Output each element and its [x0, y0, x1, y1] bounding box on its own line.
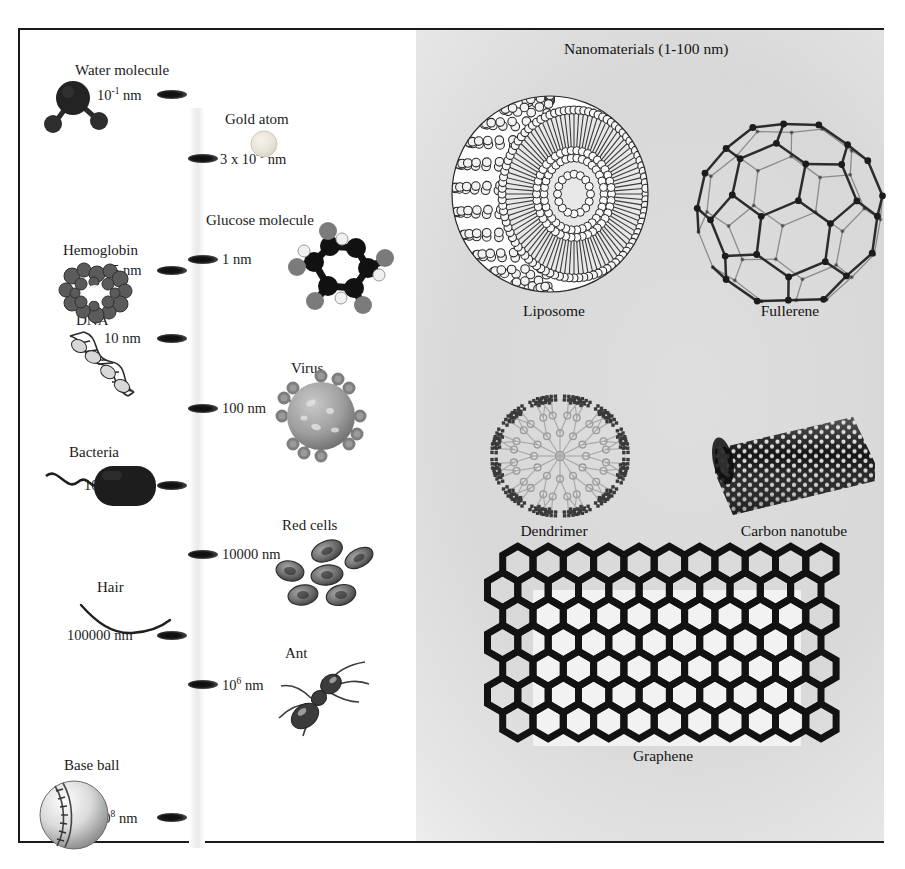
- value-virus: 100 nm: [222, 400, 266, 417]
- liposome-icon: [444, 88, 656, 300]
- hemoglobin-icon: [56, 262, 136, 324]
- dendrimer-icon: [457, 366, 663, 546]
- graphene-icon: [533, 590, 801, 746]
- nanomaterial-label-dendrimer: Dendrimer: [494, 522, 614, 540]
- label-hair: Hair: [97, 579, 124, 596]
- baseball-icon: [37, 778, 111, 852]
- dna-icon: [60, 330, 138, 406]
- gold-atom-icon: [249, 129, 279, 159]
- tick-ant: [188, 680, 218, 689]
- nanomaterial-label-fullerene: Fullerene: [730, 302, 850, 320]
- value-ant: 106 nm: [222, 676, 263, 694]
- ant-icon: [275, 658, 371, 738]
- label-hemoglobin: Hemoglobin: [63, 242, 138, 259]
- hair-icon: [78, 602, 174, 642]
- nanomaterial-label-liposome: Liposome: [494, 302, 614, 320]
- value-red-cells: 10000 nm: [222, 546, 280, 563]
- label-red-cells: Red cells: [282, 517, 337, 534]
- value-glucose-molecule: 1 nm: [222, 251, 251, 268]
- label-gold-atom: Gold atom: [225, 111, 289, 128]
- carbon-nanotube-icon: [703, 415, 883, 527]
- nanoscale-comparison-figure: Nanomaterials (1-100 nm) Water molecule …: [0, 0, 905, 869]
- tick-gold-atom: [188, 154, 218, 163]
- tick-dna: [157, 334, 187, 343]
- page-title: Nanomaterials (1-100 nm): [564, 40, 728, 58]
- fullerene-icon: [701, 125, 879, 303]
- tick-base-ball: [157, 813, 187, 822]
- virus-icon: [278, 372, 364, 460]
- red-blood-cells-icon: [275, 538, 375, 608]
- nanomaterial-label-carbon-nanotube: Carbon nanotube: [714, 522, 874, 540]
- tick-glucose-molecule: [188, 255, 218, 264]
- tick-hemoglobin: [157, 266, 187, 275]
- water-molecule-icon: [42, 76, 120, 136]
- tick-virus: [188, 404, 218, 413]
- size-scale-axis: [189, 108, 205, 848]
- bacteria-icon: [42, 462, 162, 514]
- nanomaterial-label-graphene: Graphene: [598, 747, 728, 765]
- label-bacteria: Bacteria: [69, 444, 119, 461]
- figure-frame: Nanomaterials (1-100 nm) Water molecule …: [18, 28, 884, 843]
- tick-water-molecule: [157, 90, 187, 99]
- label-base-ball: Base ball: [64, 757, 119, 774]
- tick-red-cells: [188, 550, 218, 559]
- glucose-molecule-icon: [284, 226, 394, 318]
